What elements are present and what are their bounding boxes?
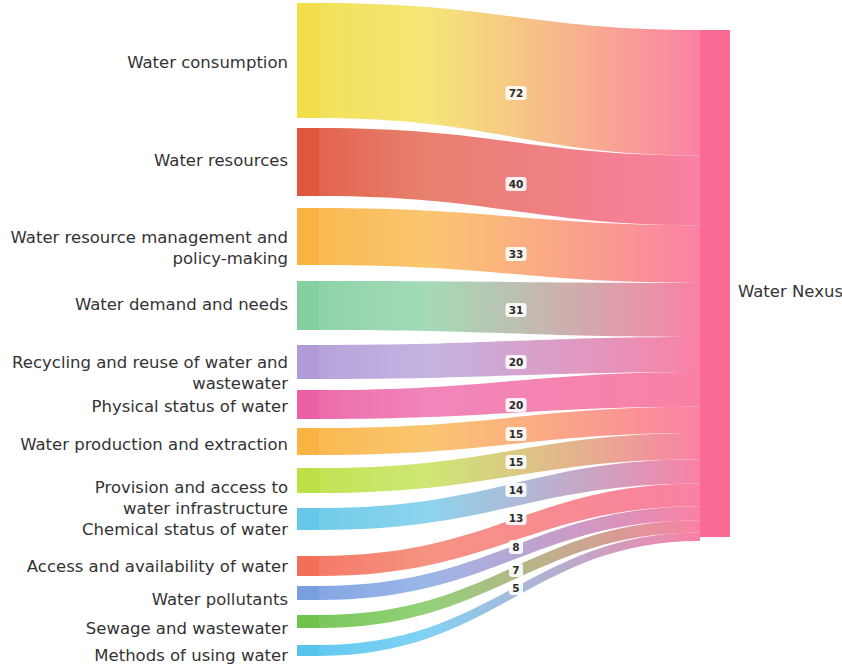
source-node-label: Methods of using water bbox=[94, 646, 288, 665]
source-node-label: Physical status of water bbox=[92, 397, 289, 416]
target-node-bar[interactable] bbox=[700, 30, 730, 537]
source-node-bar[interactable] bbox=[297, 645, 319, 656]
flow-value-label: 40 bbox=[509, 178, 524, 190]
flow-value-label: 7 bbox=[512, 564, 519, 576]
flow-value-label: 15 bbox=[509, 456, 524, 468]
flow-value-label: 15 bbox=[509, 428, 524, 440]
flow-value-label: 5 bbox=[512, 582, 519, 594]
source-node-bar[interactable] bbox=[297, 281, 319, 330]
flow-links-layer bbox=[319, 3, 700, 656]
target-node-layer bbox=[700, 30, 730, 537]
source-node-bar[interactable] bbox=[297, 508, 319, 530]
source-node-bar[interactable] bbox=[297, 586, 319, 600]
source-node-bar[interactable] bbox=[297, 615, 319, 628]
source-node-label: Water production and extraction bbox=[20, 435, 288, 454]
source-node-label: Water resources bbox=[154, 151, 288, 170]
source-node-label: Water demand and needs bbox=[75, 295, 288, 314]
source-node-bar[interactable] bbox=[297, 128, 319, 196]
source-node-bar[interactable] bbox=[297, 345, 319, 379]
flow-value-label: 72 bbox=[509, 87, 524, 99]
flow-value-label: 33 bbox=[509, 248, 524, 260]
source-nodes-layer bbox=[297, 3, 319, 656]
flow-value-label: 14 bbox=[509, 484, 524, 496]
source-node-label: Provision and access towater infrastruct… bbox=[95, 478, 288, 518]
flow-value-label: 20 bbox=[509, 399, 524, 411]
target-label-layer: Water Nexus bbox=[738, 282, 842, 301]
source-node-label: Sewage and wastewater bbox=[86, 619, 288, 638]
source-labels-layer: Water consumptionWater resourcesWater re… bbox=[11, 53, 289, 665]
source-node-bar[interactable] bbox=[297, 556, 319, 576]
flow-value-label: 31 bbox=[509, 304, 524, 316]
source-node-bar[interactable] bbox=[297, 390, 319, 419]
target-node-label: Water Nexus bbox=[738, 282, 842, 301]
sankey-diagram: Water consumptionWater resourcesWater re… bbox=[0, 0, 842, 666]
source-node-label: Chemical status of water bbox=[82, 520, 288, 539]
source-node-bar[interactable] bbox=[297, 208, 319, 265]
flow-value-label: 8 bbox=[512, 541, 519, 553]
source-node-bar[interactable] bbox=[297, 3, 319, 118]
flow-value-label: 20 bbox=[509, 356, 524, 368]
source-node-label: Access and availability of water bbox=[27, 557, 288, 576]
source-node-label: Water consumption bbox=[127, 53, 288, 72]
sankey-canvas: Water consumptionWater resourcesWater re… bbox=[0, 0, 842, 666]
source-node-bar[interactable] bbox=[297, 428, 319, 455]
source-node-bar[interactable] bbox=[297, 468, 319, 493]
flow-value-label: 13 bbox=[509, 512, 524, 524]
source-node-label: Water resource management andpolicy-maki… bbox=[11, 228, 288, 268]
source-node-label: Recycling and reuse of water andwastewat… bbox=[12, 353, 288, 393]
source-node-label: Water pollutants bbox=[152, 590, 288, 609]
